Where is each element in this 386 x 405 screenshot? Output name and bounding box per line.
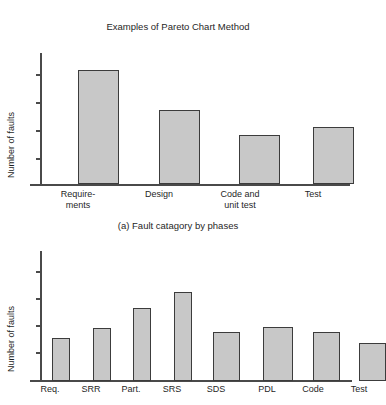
bar-sds — [213, 332, 240, 381]
bar-srr — [93, 328, 111, 381]
y-tick-a-4 — [36, 74, 41, 76]
chart-fault-category-by-phases: Number of faults Require- ments Design C… — [0, 48, 356, 216]
bar-design — [159, 110, 200, 184]
bar-test — [313, 127, 354, 184]
bar-req — [52, 338, 70, 381]
bar-test-b — [359, 343, 386, 381]
x-label-part: Part. — [112, 384, 150, 395]
x-label-code-unit-test-line1: Code and — [206, 189, 274, 200]
bar-srs — [174, 292, 192, 381]
bar-part — [133, 308, 151, 381]
x-label-test: Test — [283, 189, 343, 200]
y-tick-b-3 — [36, 298, 41, 300]
bar-code — [313, 332, 340, 381]
page-title: Examples of Pareto Chart Method — [0, 21, 356, 33]
x-label-requirements-line2: ments — [48, 200, 108, 211]
y-tick-b-1 — [36, 352, 41, 354]
x-label-test-line1: Test — [283, 189, 343, 200]
y-tick-b-4 — [36, 271, 41, 273]
x-label-test-b: Test — [340, 384, 378, 395]
y-axis-label-b: Number of faults — [6, 306, 16, 372]
x-label-srr: SRR — [72, 384, 110, 395]
running-head — [4, 0, 204, 7]
x-label-code-unit-test: Code and unit test — [206, 189, 274, 210]
chart-fault-category-by-artifact: Number of faults Req. SRR Part. SRS SDS … — [0, 245, 356, 405]
x-label-design-line1: Design — [129, 189, 189, 200]
y-tick-a-2 — [36, 130, 41, 132]
bar-pdl — [263, 327, 293, 381]
y-axis-a — [40, 53, 42, 186]
x-label-design: Design — [129, 189, 189, 200]
x-label-req: Req. — [31, 384, 69, 395]
x-label-sds: SDS — [197, 384, 235, 395]
x-label-srs: SRS — [153, 384, 191, 395]
x-label-requirements: Require- ments — [48, 189, 108, 210]
x-label-requirements-line1: Require- — [48, 189, 108, 200]
y-tick-a-1 — [36, 158, 41, 160]
figure-caption-a: (a) Fault catagory by phases — [0, 220, 356, 231]
x-label-pdl: PDL — [248, 384, 286, 395]
bar-code-unit-test — [239, 135, 280, 184]
x-axis-a — [30, 184, 350, 186]
bar-requirements — [78, 70, 119, 184]
x-label-code: Code — [294, 384, 332, 395]
y-axis-label-a: Number of faults — [6, 112, 16, 178]
y-tick-b-2 — [36, 325, 41, 327]
y-tick-a-3 — [36, 102, 41, 104]
x-label-code-unit-test-line2: unit test — [206, 200, 274, 211]
